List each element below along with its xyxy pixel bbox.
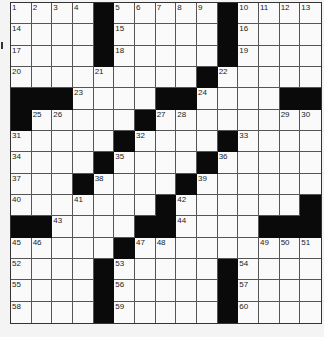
grid-cell[interactable] — [218, 110, 239, 131]
grid-cell[interactable] — [135, 280, 156, 301]
grid-cell[interactable] — [156, 174, 177, 195]
grid-cell[interactable] — [197, 195, 218, 216]
grid-cell[interactable]: 9 — [197, 3, 218, 24]
grid-cell[interactable] — [238, 216, 259, 237]
grid-cell[interactable] — [280, 152, 301, 173]
grid-cell[interactable]: 54 — [238, 259, 259, 280]
grid-cell[interactable] — [32, 280, 53, 301]
grid-cell[interactable]: 50 — [280, 238, 301, 259]
grid-cell[interactable] — [259, 259, 280, 280]
grid-cell[interactable] — [197, 24, 218, 45]
grid-cell[interactable] — [300, 302, 321, 323]
grid-cell[interactable] — [73, 24, 94, 45]
grid-cell[interactable]: 17 — [11, 46, 32, 67]
grid-cell[interactable]: 39 — [197, 174, 218, 195]
grid-cell[interactable] — [280, 195, 301, 216]
grid-cell[interactable]: 20 — [11, 67, 32, 88]
grid-cell[interactable]: 32 — [135, 131, 156, 152]
grid-cell[interactable] — [300, 131, 321, 152]
grid-cell[interactable] — [114, 88, 135, 109]
grid-cell[interactable] — [94, 110, 115, 131]
grid-cell[interactable]: 28 — [176, 110, 197, 131]
grid-cell[interactable] — [156, 302, 177, 323]
grid-cell[interactable] — [135, 46, 156, 67]
grid-cell[interactable] — [32, 131, 53, 152]
grid-cell[interactable] — [259, 195, 280, 216]
grid-cell[interactable]: 14 — [11, 24, 32, 45]
grid-cell[interactable]: 7 — [156, 3, 177, 24]
grid-cell[interactable] — [197, 46, 218, 67]
grid-cell[interactable] — [218, 195, 239, 216]
grid-cell[interactable] — [176, 67, 197, 88]
grid-cell[interactable] — [197, 302, 218, 323]
grid-cell[interactable] — [52, 195, 73, 216]
grid-cell[interactable]: 11 — [259, 3, 280, 24]
grid-cell[interactable]: 60 — [238, 302, 259, 323]
grid-cell[interactable]: 15 — [114, 24, 135, 45]
grid-cell[interactable] — [197, 259, 218, 280]
grid-cell[interactable] — [259, 67, 280, 88]
grid-cell[interactable]: 37 — [11, 174, 32, 195]
grid-cell[interactable] — [197, 216, 218, 237]
grid-cell[interactable]: 35 — [114, 152, 135, 173]
grid-cell[interactable]: 27 — [156, 110, 177, 131]
grid-cell[interactable] — [280, 302, 301, 323]
grid-cell[interactable] — [52, 238, 73, 259]
grid-cell[interactable]: 53 — [114, 259, 135, 280]
grid-cell[interactable] — [156, 24, 177, 45]
grid-cell[interactable] — [32, 195, 53, 216]
grid-cell[interactable] — [94, 88, 115, 109]
grid-cell[interactable] — [280, 67, 301, 88]
grid-cell[interactable]: 43 — [52, 216, 73, 237]
grid-cell[interactable] — [197, 238, 218, 259]
grid-cell[interactable] — [197, 110, 218, 131]
grid-cell[interactable] — [156, 259, 177, 280]
grid-cell[interactable] — [73, 259, 94, 280]
grid-cell[interactable]: 48 — [156, 238, 177, 259]
grid-cell[interactable]: 8 — [176, 3, 197, 24]
grid-cell[interactable] — [259, 174, 280, 195]
grid-cell[interactable] — [73, 46, 94, 67]
grid-cell[interactable] — [32, 302, 53, 323]
grid-cell[interactable] — [259, 152, 280, 173]
grid-cell[interactable] — [300, 24, 321, 45]
grid-cell[interactable]: 1 — [11, 3, 32, 24]
grid-cell[interactable]: 34 — [11, 152, 32, 173]
grid-cell[interactable] — [259, 24, 280, 45]
grid-cell[interactable]: 3 — [52, 3, 73, 24]
grid-cell[interactable] — [135, 152, 156, 173]
grid-cell[interactable] — [176, 259, 197, 280]
grid-cell[interactable] — [218, 174, 239, 195]
grid-cell[interactable]: 41 — [73, 195, 94, 216]
grid-cell[interactable] — [259, 88, 280, 109]
grid-cell[interactable] — [280, 259, 301, 280]
grid-cell[interactable]: 29 — [280, 110, 301, 131]
grid-cell[interactable]: 31 — [11, 131, 32, 152]
grid-cell[interactable] — [135, 24, 156, 45]
grid-cell[interactable]: 58 — [11, 302, 32, 323]
grid-cell[interactable] — [218, 88, 239, 109]
grid-cell[interactable] — [32, 174, 53, 195]
grid-cell[interactable] — [300, 152, 321, 173]
grid-cell[interactable] — [114, 195, 135, 216]
grid-cell[interactable]: 6 — [135, 3, 156, 24]
grid-cell[interactable]: 4 — [73, 3, 94, 24]
grid-cell[interactable] — [73, 216, 94, 237]
grid-cell[interactable] — [94, 238, 115, 259]
grid-cell[interactable]: 33 — [238, 131, 259, 152]
grid-cell[interactable] — [73, 67, 94, 88]
grid-cell[interactable] — [52, 174, 73, 195]
grid-cell[interactable]: 10 — [238, 3, 259, 24]
grid-cell[interactable] — [94, 216, 115, 237]
grid-cell[interactable] — [280, 174, 301, 195]
grid-cell[interactable] — [176, 280, 197, 301]
grid-cell[interactable] — [114, 216, 135, 237]
grid-cell[interactable]: 45 — [11, 238, 32, 259]
grid-cell[interactable] — [52, 302, 73, 323]
grid-cell[interactable] — [156, 280, 177, 301]
grid-cell[interactable] — [73, 302, 94, 323]
grid-cell[interactable]: 12 — [280, 3, 301, 24]
grid-cell[interactable] — [176, 152, 197, 173]
grid-cell[interactable] — [114, 174, 135, 195]
grid-cell[interactable] — [176, 238, 197, 259]
